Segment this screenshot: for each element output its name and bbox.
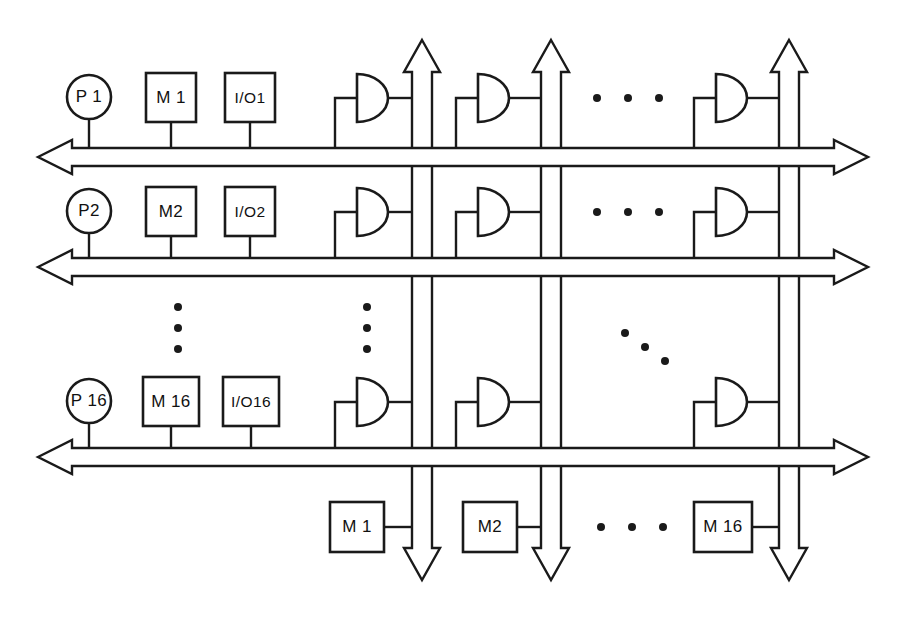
ellipsis-col-io-dot-2 [363, 324, 371, 332]
gate-input-wire-gate-r16-c2 [456, 402, 478, 448]
ellipsis-row-1-dot-1 [593, 94, 601, 102]
ellipsis-row-2-dot-3 [655, 208, 663, 216]
and-gate-gate-r2-c2 [478, 188, 509, 236]
ellipsis-col-processors-dot-1 [174, 303, 182, 311]
diagram-canvas: P 1M 1I/O1P2M2I/O2P 16M 16I/O16M 1M2M 16 [0, 0, 903, 618]
and-gate-gate-r1-c1 [357, 74, 388, 122]
and-gate-gate-r16-c3 [716, 378, 747, 426]
shared-memory-label-shared-m-1: M 1 [342, 517, 372, 536]
local-memory-label-row-1: M 1 [156, 88, 186, 107]
and-gate-gate-r1-c3 [716, 74, 747, 122]
gate-input-wire-gate-r2-c2 [456, 212, 478, 258]
ellipsis-row-2-dot-1 [593, 208, 601, 216]
and-gate-gate-r16-c2 [478, 378, 509, 426]
and-gate-gate-r2-c3 [716, 188, 747, 236]
gate-input-wire-gate-r16-c1 [335, 402, 357, 448]
gate-input-wire-gate-r2-c1 [335, 212, 357, 258]
processor-label-row-2: P2 [78, 201, 100, 220]
ellipsis-diagonal-gates-dot-1 [621, 329, 629, 337]
gate-input-wire-gate-r1-c3 [694, 98, 716, 148]
io-label-row-16: I/O16 [231, 393, 271, 410]
ellipsis-row-2-dot-2 [624, 208, 632, 216]
ellipsis-col-io-dot-1 [363, 303, 371, 311]
processor-label-row-16: P 16 [71, 391, 107, 410]
and-gate-gate-r1-c2 [478, 74, 509, 122]
ellipsis-row-1-dot-3 [655, 94, 663, 102]
vertical-bus-group [404, 40, 807, 580]
local-memory-label-row-2: M2 [159, 202, 183, 221]
ellipsis-diagonal-gates-dot-3 [661, 357, 669, 365]
ellipsis-col-processors-dot-2 [174, 324, 182, 332]
ellipsis-row-1-dot-2 [624, 94, 632, 102]
local-memory-label-row-16: M 16 [151, 392, 190, 411]
horizontal-bus-row-1 [38, 140, 868, 174]
gate-input-wire-gate-r16-c3 [694, 402, 716, 448]
ellipsis-shared-memory-dot-3 [659, 523, 667, 531]
gate-input-wire-gate-r1-c2 [456, 98, 478, 148]
shared-memory-label-shared-m-16: M 16 [703, 517, 742, 536]
ellipsis-col-io-dot-3 [363, 345, 371, 353]
and-gate-gate-r16-c1 [357, 378, 388, 426]
vertical-bus-vbus-3 [771, 40, 807, 580]
vertical-bus-vbus-1 [404, 40, 440, 580]
ellipsis-col-processors-dot-3 [174, 345, 182, 353]
ellipsis-shared-memory-dot-1 [597, 523, 605, 531]
horizontal-bus-row-16 [38, 440, 868, 474]
io-label-row-2: I/O2 [235, 203, 266, 220]
crossbar-diagram: P 1M 1I/O1P2M2I/O2P 16M 16I/O16M 1M2M 16 [0, 0, 903, 618]
gate-input-wire-gate-r2-c3 [694, 212, 716, 258]
processor-label-row-1: P 1 [76, 87, 102, 106]
io-label-row-1: I/O1 [235, 89, 266, 106]
node-group [67, 73, 279, 426]
gate-input-wire-gate-r1-c1 [335, 98, 357, 148]
horizontal-bus-row-2 [38, 250, 868, 284]
ellipsis-shared-memory-dot-2 [628, 523, 636, 531]
and-gate-gate-r2-c1 [357, 188, 388, 236]
ellipsis-diagonal-gates-dot-2 [641, 343, 649, 351]
vertical-bus-vbus-2 [533, 40, 569, 580]
shared-memory-label-shared-m-2: M2 [478, 517, 502, 536]
